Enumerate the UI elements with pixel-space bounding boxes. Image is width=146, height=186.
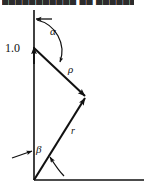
angle-beta-label: β: [36, 144, 41, 155]
angle-alpha-label: α: [50, 26, 56, 37]
diagram-canvas: [0, 0, 146, 186]
beta-axis-leader: [12, 151, 32, 158]
vector-rho-line: [34, 48, 85, 96]
vector-r-line: [34, 98, 85, 180]
vector-rho-label: ρ: [68, 64, 73, 75]
vector-diagram-figure: ███████████ ██ ████████: [0, 0, 146, 186]
vector-r-label: r: [71, 126, 75, 136]
scale-value-label: 1.0: [5, 42, 20, 54]
beta-ray-leader: [50, 157, 64, 176]
